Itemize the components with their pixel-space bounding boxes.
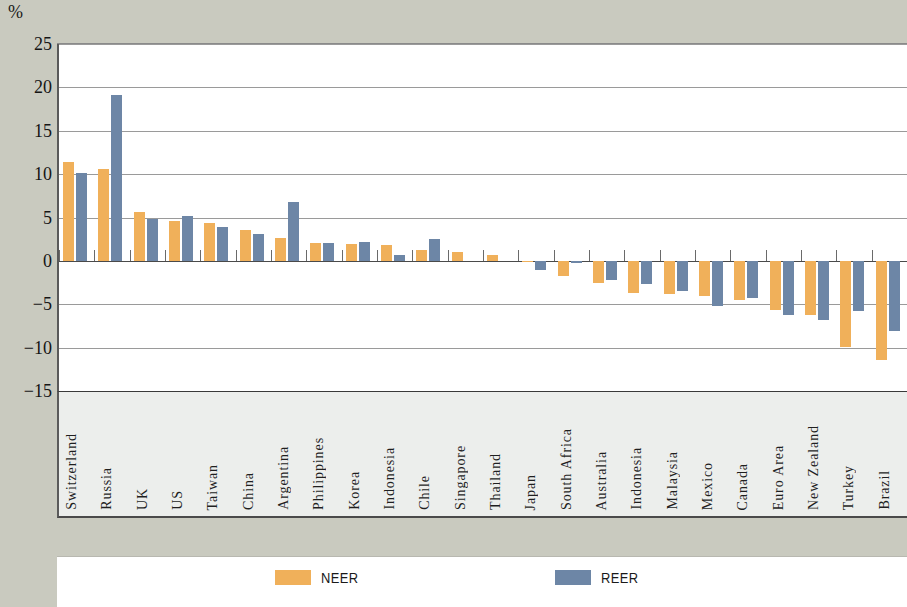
x-axis-label: Taiwan: [205, 464, 221, 510]
bar-neer: [169, 221, 180, 261]
legend-label: REER: [601, 569, 639, 586]
bar-neer: [699, 261, 710, 296]
bar-group: [837, 44, 872, 391]
bar-neer: [63, 162, 74, 261]
x-axis-tick: [271, 250, 272, 261]
y-tick-label: 15: [4, 120, 52, 141]
x-axis-label: Korea: [347, 471, 363, 510]
x-axis-tick: [766, 250, 767, 261]
bar-group: [307, 44, 342, 391]
x-axis-label: Indonesia: [629, 447, 645, 510]
bar-neer: [346, 244, 357, 260]
x-axis-label: South Africa: [559, 428, 575, 510]
x-axis-label: Australia: [594, 451, 610, 510]
bar-group: [272, 44, 307, 391]
bar-reer: [641, 261, 652, 284]
y-tick-label: 0: [4, 250, 52, 271]
bar-group: [343, 44, 378, 391]
bar-reer: [889, 261, 900, 331]
bar-neer: [98, 169, 109, 261]
bar-group: [201, 44, 236, 391]
bar-reer: [111, 95, 122, 261]
x-axis-tick: [695, 250, 696, 261]
bar-reer: [606, 261, 617, 280]
bar-reer: [571, 261, 582, 264]
bar-reer: [677, 261, 688, 291]
x-axis-label: Malaysia: [665, 451, 681, 510]
x-axis-label: Japan: [523, 474, 539, 510]
bar-group: [555, 44, 590, 391]
plot-area: [57, 44, 907, 391]
bar-group: [449, 44, 484, 391]
x-axis-label-strip: SwitzerlandRussiaUKUSTaiwanChinaArgentin…: [57, 391, 907, 518]
x-axis-tick: [165, 250, 166, 261]
bar-neer: [204, 223, 215, 261]
x-axis-label: Chile: [417, 475, 433, 510]
x-axis-label: Philippines: [311, 437, 327, 510]
bar-reer: [147, 219, 158, 261]
x-axis-tick: [94, 250, 95, 261]
x-axis-label: Argentina: [276, 446, 292, 510]
legend-swatch-icon: [555, 570, 591, 585]
bar-reer: [182, 216, 193, 261]
bar-reer: [217, 227, 228, 261]
bar-neer: [593, 261, 604, 284]
x-axis-tick: [377, 250, 378, 261]
bar-group: [767, 44, 802, 391]
bar-group: [413, 44, 448, 391]
bar-neer: [628, 261, 639, 293]
bar-neer: [310, 243, 321, 261]
bar-group: [661, 44, 696, 391]
y-tick-label: 20: [4, 77, 52, 98]
bar-series-container: [59, 44, 907, 391]
x-axis-label: UK: [135, 488, 151, 510]
x-axis-tick: [554, 250, 555, 261]
x-axis-label: Thailand: [488, 453, 504, 510]
bar-neer: [487, 255, 498, 261]
x-axis-tick: [518, 250, 519, 261]
bar-group: [696, 44, 731, 391]
x-axis-tick: [483, 250, 484, 261]
x-axis-label: Euro Area: [771, 445, 787, 510]
legend-item-neer[interactable]: NEER: [275, 569, 365, 586]
y-tick-label: −15: [4, 381, 52, 402]
legend-swatch-icon: [275, 570, 311, 585]
bar-group: [590, 44, 625, 391]
bar-group: [60, 44, 95, 391]
x-axis-label: Brazil: [877, 470, 893, 510]
bar-group: [625, 44, 660, 391]
x-axis-tick: [342, 250, 343, 261]
bar-reer: [429, 239, 440, 261]
bar-reer: [394, 255, 405, 261]
bar-group: [802, 44, 837, 391]
bar-neer: [275, 238, 286, 261]
legend-item-reer[interactable]: REER: [555, 569, 645, 586]
chart-legend: NEERREER: [57, 556, 907, 607]
x-axis-label: China: [241, 472, 257, 510]
x-axis-tick: [589, 250, 590, 261]
bar-reer: [712, 261, 723, 306]
bar-neer: [452, 252, 463, 261]
legend-label: NEER: [321, 569, 359, 586]
bar-neer: [558, 261, 569, 276]
x-axis-tick: [660, 250, 661, 261]
bar-reer: [288, 202, 299, 261]
bar-neer: [805, 261, 816, 315]
bar-reer: [747, 261, 758, 298]
bar-group: [131, 44, 166, 391]
y-tick-label: 25: [4, 34, 52, 55]
bar-neer: [664, 261, 675, 294]
bar-neer: [381, 245, 392, 261]
bar-neer: [522, 261, 533, 262]
bar-reer: [818, 261, 829, 320]
bar-group: [378, 44, 413, 391]
x-axis-tick: [306, 250, 307, 261]
bar-neer: [734, 261, 745, 300]
x-axis-tick: [200, 250, 201, 261]
bar-neer: [134, 212, 145, 261]
x-axis-label: Singapore: [453, 445, 469, 510]
x-axis-tick: [624, 250, 625, 261]
x-axis-label: Turkey: [841, 465, 857, 510]
y-axis-tick-labels: 2520151050−5−10−15: [0, 0, 52, 606]
